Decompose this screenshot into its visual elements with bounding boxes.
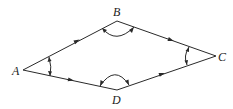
angle-arrow-b2-icon [129, 27, 134, 33]
quadrilateral-diagram: A B C D [0, 0, 233, 109]
vertex-label-c: C [218, 50, 227, 64]
angle-arc-d [100, 75, 129, 86]
vertex-label-d: D [111, 93, 121, 107]
vertex-label-b: B [113, 5, 121, 19]
vertex-label-a: A [11, 64, 20, 78]
edge-arrow-b-c-icon [168, 37, 175, 43]
angle-arrow-c-icon [186, 47, 190, 52]
edge-arrow-a-d-icon [68, 77, 75, 82]
edge-b-c [117, 21, 216, 56]
edge-d-c [117, 56, 216, 90]
angle-arc-b [102, 27, 134, 36]
